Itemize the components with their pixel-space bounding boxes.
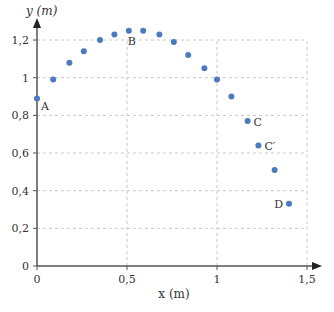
x-tick-label: 0 [34,273,41,286]
y-tick-label: 0,2 [12,222,30,235]
x-tick-label: 0,5 [118,273,136,286]
data-point [272,167,278,173]
x-tick-label: 1,5 [298,273,316,286]
y-tick-label: 0,4 [12,185,30,198]
data-point [255,142,261,148]
point-label: D [274,198,283,211]
point-label: A [40,100,50,113]
data-point [126,28,132,34]
tick-labels: 00,20,40,60,811,200,511,5 [12,34,316,286]
data-point [50,77,56,83]
data-point [81,48,87,54]
y-axis-arrow-icon [33,18,41,28]
y-tick-label: 1 [22,72,29,85]
y-tick-label: 0,8 [12,109,30,122]
x-tick-label: 1 [214,273,221,286]
x-axis-arrow-icon [312,262,322,270]
x-axis-label: x (m) [158,287,189,301]
data-point [286,201,292,207]
data-point [214,77,220,83]
y-axis-label: y (m) [25,4,58,18]
trajectory-chart: 00,20,40,60,811,200,511,5 y (m) x (m) AB… [0,0,334,312]
point-label: B [128,35,136,48]
data-point [228,94,234,100]
axes [33,18,322,270]
point-label: C′ [264,140,275,153]
data-point [34,95,40,101]
data-points: ABCC′D [34,28,292,211]
y-tick-label: 0,6 [12,147,30,160]
y-tick-label: 1,2 [12,34,30,47]
data-point [201,65,207,71]
point-label: C [254,116,262,129]
data-point [66,60,72,66]
data-point [245,118,251,124]
data-point [171,39,177,45]
data-point [140,28,146,34]
data-point [97,37,103,43]
data-point [156,31,162,37]
y-tick-label: 0 [22,260,29,273]
data-point [185,52,191,58]
data-point [111,31,117,37]
